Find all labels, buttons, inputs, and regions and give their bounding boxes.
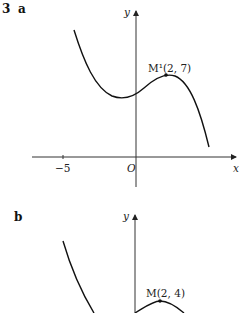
graph-a-tick-label: −5 <box>55 162 70 174</box>
graph-b: y M(2, 4) <box>63 210 185 313</box>
graph-a-y-label: y <box>123 6 131 18</box>
graph-b-point-m <box>158 299 162 303</box>
graph-a-point-label: M¹(2, 7) <box>148 62 191 74</box>
graph-b-right-curve <box>135 301 184 313</box>
graph-b-left-curve <box>63 241 94 313</box>
graph-a-x-label: x <box>233 162 239 174</box>
graph-b-y-label: y <box>122 210 130 222</box>
graphs-canvas: y M¹(2, 7) x O −5 y M(2, 4) <box>0 0 249 313</box>
graph-b-point-label: M(2, 4) <box>146 287 185 299</box>
graph-a-curve <box>74 30 209 147</box>
graph-a-origin-label: O <box>127 162 136 174</box>
graph-a: y M¹(2, 7) x O −5 <box>32 6 239 187</box>
